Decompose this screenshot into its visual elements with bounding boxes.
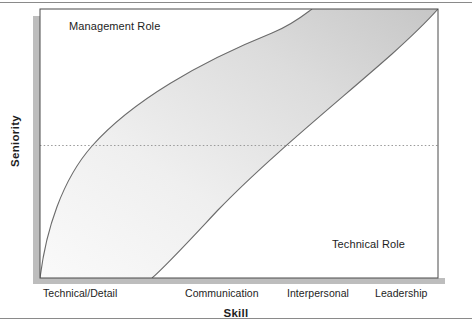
plot-shadow-bottom [33,278,445,284]
plot-shadow-left [33,16,40,284]
plot-svg [0,0,472,331]
figure-container: Management Role Technical Role Technical… [0,0,472,331]
annotation-technical-role: Technical Role [332,238,405,250]
x-axis-title: Skill [0,307,472,319]
x-axis-tick-interpersonal: Interpersonal [287,287,349,299]
annotation-management-role: Management Role [69,20,160,32]
x-axis-tick-technical-detail: Technical/Detail [43,287,117,299]
y-axis-title: Seniority [9,101,21,181]
x-axis-tick-communication: Communication [185,287,259,299]
x-axis-tick-leadership: Leadership [375,287,427,299]
